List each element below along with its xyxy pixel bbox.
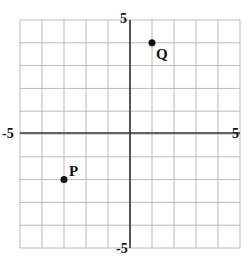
y-max-label: 5: [120, 11, 127, 26]
x-min-label: -5: [2, 126, 14, 141]
coordinate-plane: -5 5 5 -5 QP: [0, 0, 248, 261]
x-max-label: 5: [232, 126, 239, 141]
point-q: [149, 39, 156, 46]
point-label-q: Q: [156, 46, 168, 62]
point-label-p: P: [69, 163, 78, 179]
point-p: [61, 176, 68, 183]
y-min-label: -5: [116, 241, 128, 256]
